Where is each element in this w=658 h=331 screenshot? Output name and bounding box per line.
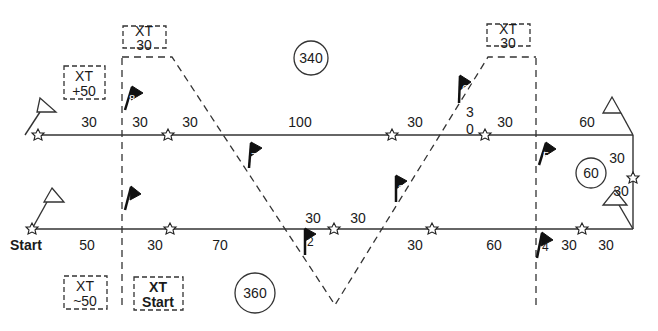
svg-text:XT: XT: [75, 68, 93, 84]
svg-text:100: 100: [288, 114, 312, 130]
star-icon: [164, 223, 176, 234]
svg-text:XT: XT: [149, 279, 167, 295]
svg-text:5: 5: [543, 150, 549, 162]
svg-text:7: 7: [251, 151, 257, 163]
flag-7-icon: 7: [249, 142, 262, 168]
svg-text:+50: +50: [72, 83, 96, 99]
star-icon: [32, 129, 44, 140]
course-diagram: 8 7 6 5 3 2 4 340 360: [0, 0, 658, 331]
xt-box-minus50: XT ~50: [64, 276, 107, 309]
svg-text:30: 30: [305, 210, 321, 226]
flag-8-icon: 8: [125, 86, 143, 110]
svg-text:30: 30: [132, 114, 148, 130]
pennant-top-left-icon: [25, 98, 56, 135]
svg-text:360: 360: [243, 285, 267, 301]
svg-text:~50: ~50: [73, 293, 97, 309]
svg-text:8: 8: [129, 93, 135, 105]
svg-text:6: 6: [462, 83, 468, 95]
flag-4-icon: 4: [537, 232, 553, 258]
flag-6-icon: 6: [459, 75, 471, 103]
xt-box-top-right: XT 30: [487, 21, 530, 51]
star-icon: [576, 223, 588, 234]
svg-text:50: 50: [79, 237, 95, 253]
svg-text:30: 30: [136, 37, 152, 53]
svg-text:70: 70: [212, 237, 228, 253]
svg-text:60: 60: [579, 114, 595, 130]
svg-text:60: 60: [486, 237, 502, 253]
star-icon: [386, 129, 398, 140]
svg-text:30: 30: [561, 237, 577, 253]
flag-1-icon: [125, 186, 141, 210]
dashed-zigzag-path: [122, 57, 536, 305]
star-icon: [426, 223, 438, 234]
svg-text:30: 30: [497, 114, 513, 130]
star-icon: [26, 223, 38, 234]
star-icon: [479, 129, 491, 140]
svg-text:340: 340: [299, 50, 323, 66]
star-icon: [627, 172, 639, 183]
svg-text:XT: XT: [76, 278, 94, 294]
svg-text:0: 0: [466, 121, 474, 137]
mid-labels: 30 30: [305, 210, 366, 226]
circle-60: 60: [576, 158, 606, 188]
svg-text:30: 30: [407, 114, 423, 130]
circle-360: 360: [235, 273, 275, 313]
star-icon: [162, 129, 174, 140]
xt-box-top-left: XT 30: [123, 23, 166, 53]
start-label: Start: [10, 237, 42, 253]
svg-text:30: 30: [81, 114, 97, 130]
svg-text:Start: Start: [142, 294, 174, 310]
svg-text:3: 3: [398, 183, 404, 195]
svg-text:4: 4: [542, 240, 549, 254]
svg-text:30: 30: [613, 183, 629, 199]
svg-text:30: 30: [598, 237, 614, 253]
pennant-top-right-icon: [603, 97, 633, 135]
right-side-labels: 30 30: [609, 150, 629, 199]
flag-5-icon: 5: [539, 142, 556, 165]
pennant-bottom-left-icon: [32, 188, 64, 229]
xt-box-start: XT Start: [134, 277, 183, 310]
circle-340: 340: [294, 41, 328, 75]
svg-text:30: 30: [407, 237, 423, 253]
top-leg-labels: 30 30 30 100 30 3 0 30 60: [81, 104, 595, 137]
svg-text:30: 30: [147, 237, 163, 253]
svg-text:30: 30: [182, 114, 198, 130]
svg-text:3: 3: [466, 104, 474, 120]
svg-text:2: 2: [307, 235, 314, 249]
flag-2-icon: 2: [305, 228, 316, 255]
svg-text:60: 60: [583, 165, 599, 181]
svg-text:30: 30: [609, 150, 625, 166]
svg-text:30: 30: [500, 35, 516, 51]
xt-box-plus50: XT +50: [64, 66, 105, 99]
star-icon: [328, 223, 340, 234]
svg-text:30: 30: [350, 210, 366, 226]
